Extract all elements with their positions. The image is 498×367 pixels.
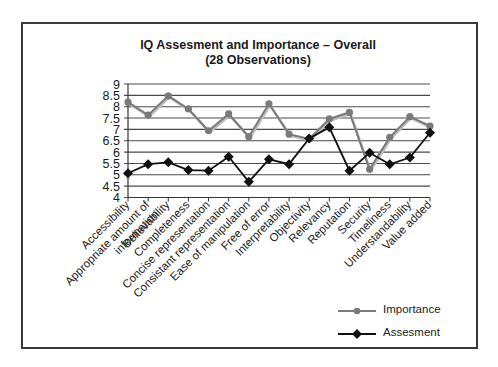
data-point-assesment <box>143 159 153 169</box>
data-point-importance <box>285 131 292 138</box>
data-point-importance <box>225 110 232 117</box>
data-point-importance <box>165 92 172 99</box>
series-shadow <box>129 97 431 171</box>
data-point-importance <box>205 127 212 134</box>
data-point-assesment <box>163 157 173 167</box>
data-point-importance <box>366 166 373 173</box>
legend-marker-assesment <box>352 329 362 339</box>
legend-label-assesment: Assesment <box>383 326 440 338</box>
data-point-importance <box>346 109 353 116</box>
legend <box>338 308 376 339</box>
data-point-importance <box>185 105 192 112</box>
data-point-importance <box>406 113 413 120</box>
data-point-importance <box>145 111 152 118</box>
legend-marker-importance <box>354 308 361 315</box>
legend-label-importance: Importance <box>383 303 441 315</box>
y-tick-label: 9 <box>113 78 120 92</box>
data-point-importance <box>245 133 252 140</box>
series-line-assesment <box>128 127 430 181</box>
data-point-importance <box>386 134 393 141</box>
data-point-importance <box>265 100 272 107</box>
gridlines <box>124 84 430 198</box>
data-point-importance <box>326 115 333 122</box>
data-point-assesment <box>183 165 193 175</box>
data-point-assesment <box>123 168 133 178</box>
x-axis: AccessibilityAppropriate amount ofinform… <box>63 198 434 300</box>
data-point-importance <box>124 99 131 106</box>
data-point-assesment <box>385 159 395 169</box>
